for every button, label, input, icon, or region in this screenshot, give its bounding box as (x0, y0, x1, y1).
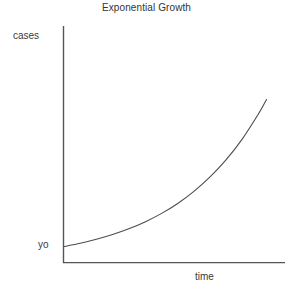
initial-value-label: yo (38, 239, 49, 250)
chart-screenshot: Exponential Growth cases yo time (0, 0, 293, 289)
y-axis-label: cases (13, 30, 39, 41)
chart-title: Exponential Growth (0, 2, 293, 13)
x-axis-label: time (195, 271, 214, 282)
exponential-curve (64, 100, 267, 247)
